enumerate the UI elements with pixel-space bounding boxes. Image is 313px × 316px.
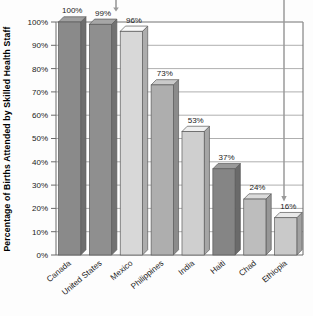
bar-top-face [89,19,116,24]
bar [213,164,240,255]
bar-value-label: 99% [95,9,111,18]
bar-top-face [244,194,271,199]
bar-value-label: 16% [280,202,296,211]
y-tick-label: 10% [32,228,48,237]
bar-value-label: 24% [249,183,265,192]
bar-top-face [275,212,302,217]
chart-canvas: 0%10%20%30%40%50%60%70%80%90%100% 16%24%… [0,0,313,316]
bar-front-face [213,169,235,255]
bar-front-face [182,132,204,255]
bar-side-face [173,80,178,255]
bar-front-face [275,218,297,255]
y-tick-label: 90% [32,41,48,50]
bar-side-face [266,194,271,255]
bar [58,17,85,255]
y-tick-label: 40% [32,158,48,167]
bar [182,126,209,255]
bar-front-face [89,24,111,255]
bar-top-face [213,164,240,169]
bar-front-face [58,22,80,255]
bar-side-face [112,19,117,255]
y-tick-label: 30% [32,181,48,190]
bar-side-face [81,17,86,255]
bar-front-face [244,199,266,255]
bar [89,19,116,255]
bar-front-face [151,85,173,255]
bar [120,26,147,255]
y-tick-label: 20% [32,204,48,213]
y-tick-label: 50% [32,134,48,143]
bar [151,80,178,255]
y-tick-label: 80% [32,65,48,74]
bar [244,194,271,255]
bar [275,212,302,255]
y-tick-label: 70% [32,88,48,97]
bar-side-face [297,212,302,255]
y-tick-label: 0% [36,251,48,260]
y-tick-label: 60% [32,111,48,120]
y-axis-title: Percentage of Births Attended by Skilled… [2,26,12,251]
bar-value-label: 53% [188,116,204,125]
y-tick-label: 100% [28,18,48,27]
bar-side-face [204,126,209,255]
bar-top-face [120,26,147,31]
bar-value-label: 100% [62,6,82,15]
bar-value-label: 73% [157,69,173,78]
bar-top-face [58,17,85,22]
bar-front-face [120,31,142,255]
bar-side-face [235,164,240,255]
bar-value-label: 37% [219,153,235,162]
bar-value-label: 96% [126,16,142,25]
bar-chart: 0%10%20%30%40%50%60%70%80%90%100% 16%24%… [0,0,313,316]
bar-top-face [151,80,178,85]
bar-side-face [142,26,147,255]
bar-top-face [182,126,209,131]
